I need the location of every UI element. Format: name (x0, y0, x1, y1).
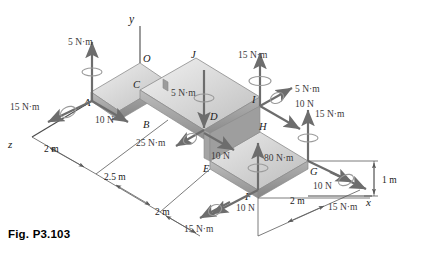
label-force-D-10N: 10 N (211, 151, 230, 161)
arrow-couple-A-z (48, 101, 92, 122)
label-couple-I-15: 15 N·m (238, 50, 268, 60)
point-label-H: H (258, 121, 268, 132)
point-label-B: B (143, 119, 150, 130)
point-label-C: C (133, 79, 141, 90)
point-label-I: I (251, 94, 256, 105)
figure-canvas: y x z O J C A B D I H E F G (0, 0, 422, 258)
dimlabel-mid-2m: 2 m (155, 207, 170, 217)
label-force-A-10N: 10 N (95, 115, 114, 125)
arrow-couple-B-25 (176, 130, 204, 146)
label-force-G-10N: 10 N (313, 181, 332, 191)
dimtick-2p5m-a (116, 185, 133, 195)
label-couple-D-5: 5 N·m (171, 88, 196, 98)
dimtick-x-2m-a (288, 214, 306, 222)
dimtick-x-2m-b (306, 206, 324, 214)
dimlabel-z-2m: 2 m (44, 144, 59, 154)
point-label-D: D (209, 111, 218, 122)
point-label-G: G (310, 166, 318, 177)
label-couple-H-15: 15 N·m (315, 109, 345, 119)
label-couple-A-vertical: 5 N·m (68, 37, 93, 47)
diagram-svg: y x z O J C A B D I H E F G (0, 0, 422, 258)
point-label-O: O (143, 53, 151, 64)
label-couple-F-80: 80 N·m (264, 153, 294, 163)
y-axis-label: y (128, 13, 135, 26)
dimtick-mid-2m-a (166, 216, 180, 224)
z-axis-label: z (7, 138, 13, 150)
label-couple-B-25: 25 N·m (136, 138, 166, 148)
dimlabel-x-2m: 2 m (290, 196, 305, 206)
dimtick-2p5m-b (133, 195, 150, 205)
dimtick-z-2m-b (66, 157, 84, 167)
label-couple-A-z: 15 N·m (10, 102, 40, 112)
label-couple-G-15: 15 N·m (328, 202, 358, 212)
dimlabel-1m: 1 m (382, 175, 397, 185)
label-couple-I-5: 5 N·m (295, 84, 320, 94)
label-force-I-10N: 10 N (295, 99, 314, 109)
figure-caption: Fig. P3.103 (8, 228, 70, 240)
dim-ext-E (160, 169, 210, 212)
label-force-F-10N: 10 N (236, 203, 255, 213)
dimlabel-2p5m: 2.5 m (104, 172, 126, 182)
